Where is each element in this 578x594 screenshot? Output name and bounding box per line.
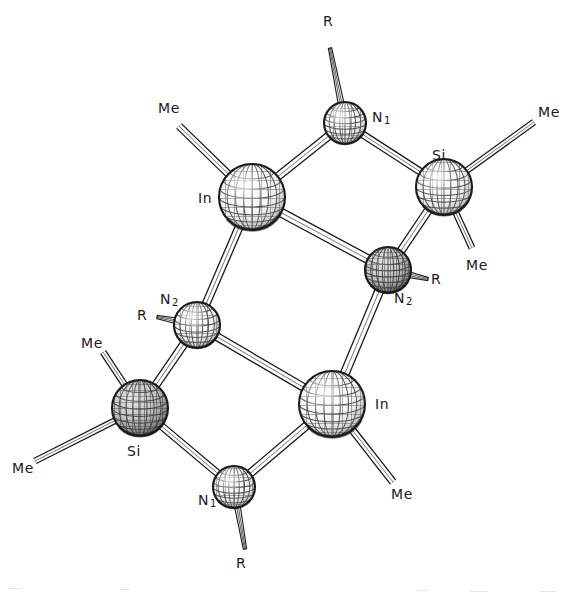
substituent-bond-layer: [35, 48, 534, 550]
substituent-bond-Me-upper-left: [179, 126, 232, 177]
atom-sphere-N2-left: [174, 302, 220, 348]
substituent-bond-Me-si-upper: [103, 352, 127, 389]
atom-index-subscript: 2: [172, 297, 178, 308]
substituent-bond-Me-right-up: [463, 122, 534, 174]
cage-bond-N1-bottom-In-bottom-right: [247, 423, 310, 476]
substituent-label-R-top: R: [323, 14, 333, 28]
cage-bond-N2-left-In-bottom-right: [213, 335, 307, 390]
element-symbol: Si: [127, 443, 141, 459]
atom-sphere-N1-bottom: [213, 466, 255, 508]
atom-sphere-Si-top-right: [416, 159, 472, 215]
cage-bond-In-top-left-N2-left: [205, 224, 241, 308]
atom-sphere-N2-right: [365, 247, 411, 293]
atom-sphere-In-top-left: [219, 164, 285, 230]
structure-drawing: [0, 0, 578, 594]
substituent-bond-R-top: [328, 48, 344, 108]
atom-sphere-Si-bottom-left: [112, 380, 168, 436]
atom-index-subscript: 2: [406, 296, 412, 307]
scan-artifact: [8, 588, 22, 589]
cage-bond-N2-left-Si-bottom-left: [154, 341, 187, 389]
substituent-bond-Me-in-lower: [349, 426, 393, 482]
cage-bond-N2-right-In-bottom-right: [343, 288, 380, 378]
atom-index-subscript: 1: [210, 498, 216, 509]
substituent-bond-Me-si-left: [35, 418, 119, 461]
substituent-label-R-right: R: [431, 272, 441, 286]
element-symbol: N: [198, 492, 209, 508]
cage-bond-In-top-left-N1-top: [275, 134, 332, 179]
atom-sphere-N1-top: [324, 102, 366, 144]
atom-label-Si-bottom-left: Si: [127, 444, 141, 458]
substituent-label-Me-si-left: Me: [12, 461, 34, 475]
substituent-bond-Me-right-down: [454, 208, 472, 248]
scan-artifact: [120, 589, 129, 590]
element-symbol: N: [160, 291, 171, 307]
element-symbol: N: [394, 290, 405, 306]
substituent-label-Me-upper-left: Me: [158, 101, 180, 115]
element-symbol: In: [375, 396, 389, 412]
molecular-structure-figure: InN1SiN2N2SiInN1RMeMeMeRRMeMeMeR: [0, 0, 578, 594]
scan-artifact: [470, 591, 488, 592]
substituent-label-Me-right-up: Me: [538, 105, 560, 119]
atom-label-N1-bottom: N1: [198, 493, 215, 507]
atom-label-N1-top: N1: [372, 110, 389, 124]
atom-label-In-bottom-right: In: [375, 397, 389, 411]
atom-sphere-In-bottom-right: [299, 371, 365, 437]
atom-label-In-top-left: In: [198, 191, 212, 205]
cage-bond-N2-right-In-top-left: [278, 211, 372, 261]
cage-bond-N1-top-Si-top-right: [359, 132, 424, 174]
substituent-label-Me-right-down: Me: [466, 258, 488, 272]
atom-label-N2-left: N2: [160, 292, 177, 306]
substituent-label-Me-in-lower: Me: [391, 487, 413, 501]
atom-index-subscript: 1: [384, 115, 390, 126]
substituent-label-Me-si-upper: Me: [81, 336, 103, 350]
scan-artifact: [540, 591, 556, 592]
substituent-bond-R-bottom: [234, 502, 247, 549]
cage-bond-Si-bottom-left-N1-bottom: [158, 423, 221, 476]
element-symbol: In: [198, 190, 212, 206]
cage-bond-Si-top-right-N2-right: [399, 207, 431, 254]
substituent-label-R-bottom: R: [236, 556, 246, 570]
substituent-label-R-left: R: [137, 308, 147, 322]
atom-label-N2-right: N2: [394, 291, 411, 305]
atom-label-Si-top-right: Si: [432, 148, 446, 162]
element-symbol: N: [372, 109, 383, 125]
scan-artifact: [418, 590, 428, 591]
element-symbol: Si: [432, 147, 446, 163]
